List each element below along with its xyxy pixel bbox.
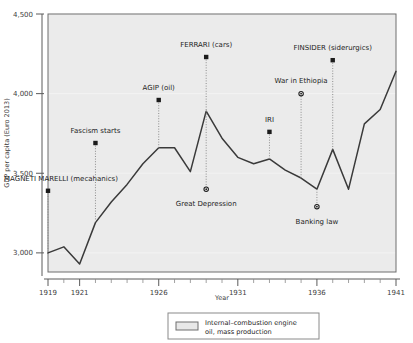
annotation-label: War in Ethiopia — [275, 77, 328, 85]
annotation-label: Banking law — [296, 218, 339, 226]
legend-label-line2: oil, mass production — [205, 328, 272, 336]
legend-label-line1: Internal–combustion engine — [205, 319, 297, 327]
legend-swatch-internal-combustion — [176, 322, 198, 330]
annotation-square-marker — [331, 58, 335, 62]
annotation-label: Fascism starts — [71, 127, 121, 135]
x-tick-label: 1931 — [229, 289, 247, 297]
annotation-circle-center — [205, 188, 207, 190]
x-tick-label: 1936 — [308, 289, 326, 297]
annotation-circle-center — [316, 206, 318, 208]
annotation-label: MAGNETI MARELLI (mecahanics) — [4, 175, 118, 183]
annotation-label: AGIP (oil) — [143, 84, 176, 92]
annotation-square-marker — [267, 130, 271, 134]
x-tick-label: 1926 — [150, 289, 168, 297]
annotation-square-marker — [46, 189, 50, 193]
x-tick-label: 1919 — [39, 289, 57, 297]
x-tick-label: 1921 — [71, 289, 89, 297]
annotation-square-marker — [93, 141, 97, 145]
annotation-square-marker — [204, 55, 208, 59]
annotation-circle-center — [300, 93, 302, 95]
y-tick-label: 4,500 — [13, 11, 33, 19]
y-axis-tick-labels: 3,0003,5004,0004,500 — [13, 11, 33, 258]
x-tick-label: 1941 — [387, 289, 405, 297]
x-axis-minor-ticks — [64, 279, 380, 283]
annotation-label: FERRARI (cars) — [180, 41, 232, 49]
y-tick-label: 4,000 — [13, 90, 33, 98]
annotation-label: IRI — [265, 116, 274, 124]
x-axis-title: Year — [214, 294, 229, 302]
y-axis-ticks — [36, 14, 44, 253]
chart-figure: 3,0003,5004,0004,500 GDP per capita (Eur… — [0, 0, 413, 343]
annotation-label: Great Depression — [176, 200, 237, 208]
gdp-per-capita-line-chart: 3,0003,5004,0004,500 GDP per capita (Eur… — [0, 0, 413, 343]
annotation-label: FINSIDER (siderurgics) — [293, 44, 372, 52]
y-tick-label: 3,000 — [13, 249, 33, 257]
annotation-square-marker — [157, 98, 161, 102]
legend: Internal–combustion engine oil, mass pro… — [168, 313, 319, 339]
plot-area-background — [48, 14, 396, 272]
